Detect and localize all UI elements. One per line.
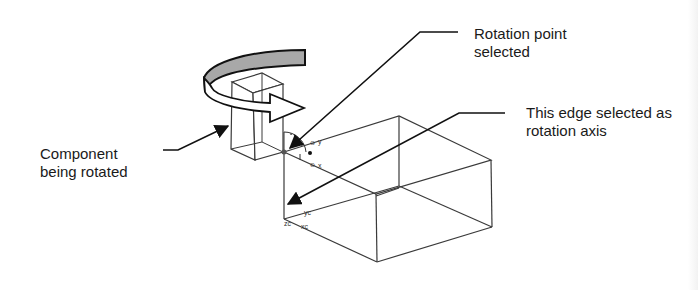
axis-label-yc: yc [304, 209, 312, 217]
axis-label-xc: xc [301, 223, 309, 230]
leader-lines [163, 32, 505, 204]
callout-rotation-point: Rotation point selected [474, 25, 567, 61]
callout-component-line2: being rotated [40, 163, 128, 181]
callout-component-line1: Component [40, 145, 128, 163]
leader-rotation-axis [288, 113, 505, 204]
axis-label-zc: zc [284, 220, 292, 227]
callout-rotation-axis-line2: rotation axis [526, 122, 672, 140]
axis-ghost-y: ⊖ [310, 140, 315, 146]
rotation-point-marker [282, 132, 313, 160]
callout-component: Component being rotated [40, 145, 128, 181]
axis-ghost-x: ⊖ [310, 162, 315, 168]
diagram-canvas: y ⊖ x ⊖ zc yc xc Rotation point selected… [0, 0, 698, 290]
axis-label-x: x [318, 162, 322, 169]
page-edge-shadow [688, 0, 698, 290]
callout-rotation-axis: This edge selected as rotation axis [526, 104, 672, 140]
callout-rotation-axis-line1: This edge selected as [526, 104, 672, 122]
leader-rotation-point [290, 32, 458, 148]
leader-component [163, 126, 228, 150]
axis-label-y: y [318, 138, 322, 146]
callout-rotation-point-line2: selected [474, 43, 567, 61]
callout-rotation-point-line1: Rotation point [474, 25, 567, 43]
